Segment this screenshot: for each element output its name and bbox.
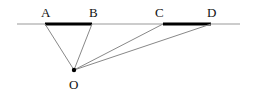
label-o: O — [69, 77, 78, 92]
ray-oc — [74, 24, 163, 70]
label-a: A — [41, 5, 51, 20]
label-d: D — [207, 5, 216, 20]
ray-od — [74, 24, 211, 70]
ray-oa — [45, 24, 74, 70]
label-c: C — [155, 5, 164, 20]
ray-ob — [74, 24, 92, 70]
label-b: B — [89, 5, 98, 20]
point-o-dot — [72, 68, 76, 72]
geometry-diagram: A B C D O — [0, 0, 254, 93]
